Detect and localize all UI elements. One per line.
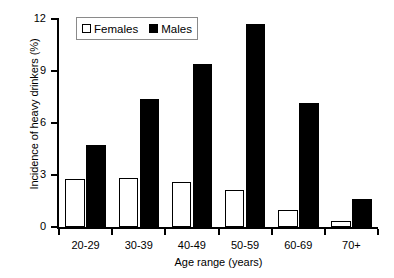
legend-item-males[interactable]: Males [149,23,192,35]
bar-females-60-69 [278,210,298,227]
x-axis-tick [58,229,60,235]
legend-swatch-hollow-square-icon [82,24,91,33]
legend-item-females[interactable]: Females [82,23,138,35]
bar-males-60-69 [299,103,319,227]
bar-females-20-29 [65,179,85,227]
x-axis-tick [111,229,113,235]
x-axis-tick [377,229,379,235]
bar-females-70+ [331,221,351,227]
y-axis-tick-label: 3 [6,169,46,180]
legend-swatch-filled-square-icon [149,24,158,33]
x-axis-tick [324,229,326,235]
y-axis-tick [51,18,58,20]
plot-area [59,19,378,227]
bar-females-30-39 [119,178,139,227]
x-axis-tick [218,229,220,235]
y-axis-tick-label: 0 [6,221,46,232]
y-axis-tick-label: 12 [6,13,46,24]
x-axis-tick [164,229,166,235]
y-axis-tick-label: 6 [6,117,46,128]
y-axis-tick [51,226,58,228]
bar-males-40-49 [193,64,213,227]
bar-males-30-39 [140,99,160,227]
bar-chart: Incidence of heavy drinkers (%) 036912 2… [0,0,394,278]
x-axis-tick [271,229,273,235]
bar-females-40-49 [172,182,192,227]
y-axis-tick [51,70,58,72]
x-axis-title: Age range (years) [59,256,378,268]
legend-label-males: Males [161,23,192,35]
bar-males-20-29 [86,145,106,227]
y-axis-tick-label: 9 [6,65,46,76]
legend-label-females: Females [94,23,138,35]
bar-females-50-59 [225,190,245,227]
bar-males-70+ [352,199,372,227]
bar-males-50-59 [246,24,266,227]
chart-legend: Females Males [76,17,198,40]
y-axis-title: Incidence of heavy drinkers (%) [28,4,40,224]
y-axis-tick [51,122,58,124]
y-axis-tick [51,174,58,176]
x-axis-tick-label: 70+ [316,239,386,251]
